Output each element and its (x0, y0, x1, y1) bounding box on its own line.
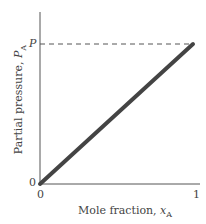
data-line (40, 44, 193, 184)
x-axis-label-text: Mole fraction, (78, 204, 160, 217)
x-tick-1: 1 (193, 188, 200, 201)
y-axis-label-sub: A (19, 45, 28, 51)
y-axis-label-text: Partial pressure, (12, 58, 25, 154)
y-axis-label-var: P (12, 51, 25, 58)
x-axis-label: Mole fraction, xA (78, 204, 172, 219)
y-axis-label: Partial pressure, PA (12, 40, 27, 160)
x-tick-0: 0 (37, 188, 44, 201)
y-tick-P: P (29, 37, 36, 50)
x-axis-label-sub: A (166, 210, 172, 219)
chart-plot (0, 0, 206, 224)
y-tick-0: 0 (29, 176, 36, 189)
